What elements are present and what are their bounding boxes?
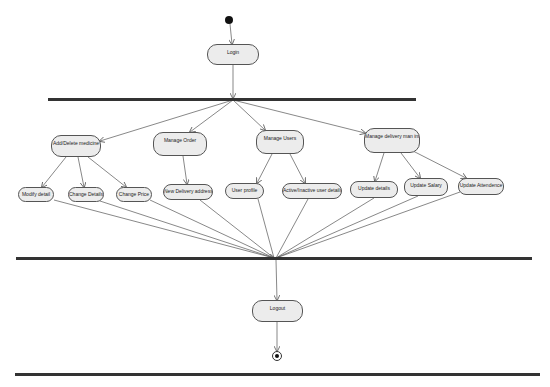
start-node [225,16,233,24]
join-bar [16,257,532,260]
node-manage-delivery-man-info[interactable]: Manage delivery man info [364,128,420,153]
node-login[interactable]: Login [207,44,259,65]
node-update-details[interactable]: Update details [350,181,398,198]
node-change-price[interactable]: Change Price [116,187,152,202]
final-node-inner [275,354,279,358]
node-manage-users[interactable]: Manage Users [256,130,304,154]
node-add-delete-medicine[interactable]: Add/Delete medicine [51,135,101,157]
bottom-bar [15,373,540,376]
node-change-details[interactable]: Change Details [68,187,104,202]
node-update-salary[interactable]: Update Salary [404,178,448,196]
node-new-delivery-address[interactable]: New Delivery address [163,184,213,200]
node-logout[interactable]: Logout [252,300,303,322]
node-modify-detail[interactable]: Modify detail [18,187,54,202]
node-update-attendence[interactable]: Update Attendence [458,178,504,195]
activity-diagram: Login Add/Delete medicine Manage Order M… [0,0,550,387]
node-active-inactive-user-details[interactable]: Active/Inactive user details [282,183,342,199]
fork-bar [48,98,416,101]
final-node [272,351,282,361]
node-manage-order[interactable]: Manage Order [153,132,207,156]
node-user-profile[interactable]: User profile [225,183,264,199]
